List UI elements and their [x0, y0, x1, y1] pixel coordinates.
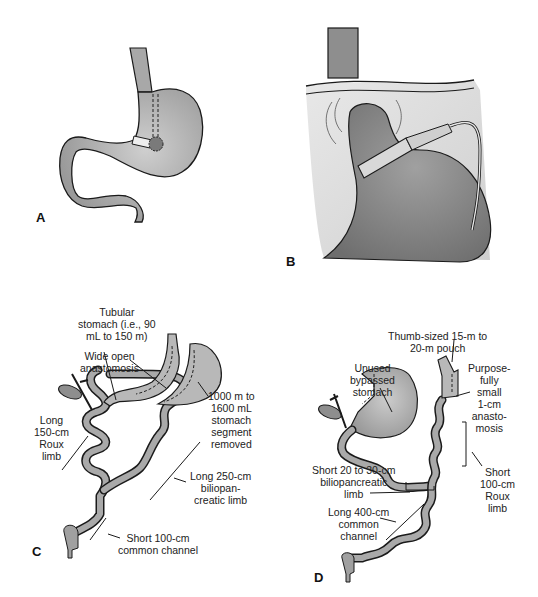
panel-letter-b: B [286, 254, 295, 269]
panel-d: Thumb-sized 15-m to 20-m pouch Unused by… [270, 300, 538, 597]
adjustable-band-illustration [270, 0, 538, 290]
label-common-channel: Short 100-cm common channel [118, 532, 198, 556]
label-tubular-stomach: Tubular stomach (i.e., 90 mL to 150 m) [78, 306, 156, 342]
panel-letter-c: C [32, 544, 41, 559]
label-bypassed-stomach: Unused bypassed stomach [350, 362, 395, 398]
label-wide-open-anastomosis: Wide open anastomosis [80, 350, 139, 374]
label-biliopancreatic-limb-d: Short 20 to 30-cm biliopancreatic limb [312, 464, 395, 500]
panel-letter-d: D [314, 570, 323, 585]
label-common-channel-d: Long 400-cm common channel [328, 506, 389, 542]
label-roux-limb: Long 150-cm Roux limb [34, 414, 69, 462]
panel-b: B [270, 0, 538, 290]
label-anastomosis: Purpose- fully small 1-cm anasto- mosis [468, 362, 511, 434]
panel-a: A [0, 0, 270, 290]
panel-c: Tubular stomach (i.e., 90 mL to 150 m) W… [0, 300, 270, 597]
label-roux-limb-d: Short 100-cm Roux limb [480, 466, 515, 514]
panel-letter-a: A [36, 210, 45, 225]
label-pouch: Thumb-sized 15-m to 20-m pouch [388, 330, 487, 354]
label-biliopancreatic-limb: Long 250-cm biliopan- creatic limb [190, 470, 251, 506]
stomach-band-illustration [0, 0, 270, 290]
label-stomach-segment-removed: 1000 m to 1600 mL stomach segment remove… [208, 390, 255, 450]
